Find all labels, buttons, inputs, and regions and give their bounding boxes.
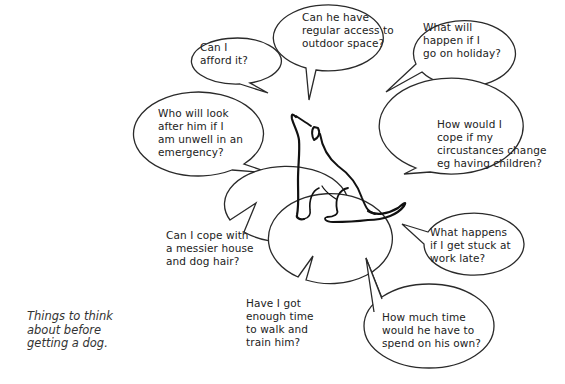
bubble-text-messier-house: Can I cope with a messier house and dog …	[166, 229, 254, 268]
bubble-walk-train	[268, 194, 392, 284]
bubble-text-circumstances: How would I cope if my circustances chan…	[437, 118, 546, 170]
speech-bubble-shape	[268, 194, 392, 284]
diagram-caption: Things to think about before getting a d…	[27, 310, 113, 351]
bubble-text-holiday: What will happen if I go on holiday?	[423, 21, 501, 60]
bubble-text-afford: Can I afford it?	[200, 41, 248, 67]
bubble-text-walk-train: Have I got enough time to walk and train…	[246, 297, 314, 349]
bubble-text-outdoor: Can he have regular access to outdoor sp…	[302, 11, 394, 50]
bubble-text-on-his-own: How much time would he have to spend on …	[382, 311, 481, 350]
bubble-text-unwell: Who will look after him if I am unwell i…	[158, 107, 243, 159]
bubble-text-work-late: What happens if I get stuck at work late…	[430, 226, 511, 265]
